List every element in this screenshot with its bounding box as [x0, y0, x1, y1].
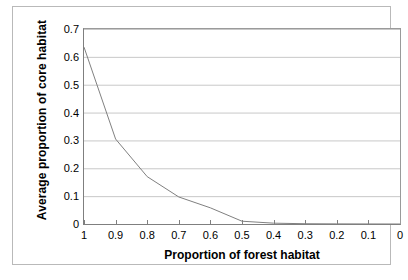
y-axis-title: Average proportion of core habitat [35, 5, 49, 235]
y-axis-title-wrapper: Average proportion of core habitat [35, 5, 51, 235]
data-series-line [84, 47, 400, 224]
y-axis-tick-labels: 0.70.60.50.40.30.20.10 [49, 28, 79, 225]
x-axis-title: Proportion of forest habitat [83, 248, 401, 262]
chart-plot-svg [84, 29, 400, 224]
plot-area [83, 28, 401, 225]
y-tick-label: 0.4 [53, 107, 79, 118]
y-tick-label: 0.6 [53, 51, 79, 62]
chart-outer-frame: 0.70.60.50.40.30.20.10 10.90.80.70.60.50… [12, 6, 391, 265]
y-tick-label: 0 [53, 219, 79, 230]
y-tick-label: 0.2 [53, 163, 79, 174]
x-tick-mark-group [85, 220, 401, 224]
x-axis-tick-labels: 10.90.80.70.60.50.40.30.20.10 [83, 229, 401, 245]
chart-figure: 0.70.60.50.40.30.20.10 10.90.80.70.60.50… [0, 0, 408, 280]
y-tick-label: 0.1 [53, 191, 79, 202]
y-tick-label: 0.5 [53, 79, 79, 90]
y-tick-label: 0.7 [53, 24, 79, 35]
y-tick-label: 0.3 [53, 135, 79, 146]
x-tick-label: 0 [380, 229, 408, 242]
gridline-group [84, 30, 400, 197]
